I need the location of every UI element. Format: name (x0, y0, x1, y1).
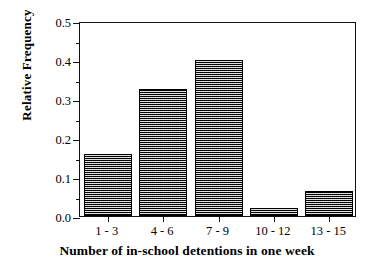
y-axis-title: Relative Frequency (19, 0, 35, 150)
y-axis-tick-label: 0.0 (55, 211, 71, 226)
x-axis-tick (274, 216, 275, 222)
x-axis-tick-label: 10 - 12 (255, 224, 290, 239)
y-axis-tick-major (73, 179, 80, 180)
chart-container: Relative Frequency 0.00.10.20.30.40.5 1 … (0, 0, 374, 270)
y-axis-tick-major (73, 23, 80, 24)
bar (305, 191, 353, 216)
y-axis-tick-major (73, 101, 80, 102)
bar (250, 208, 298, 216)
y-axis-tick-major (73, 218, 80, 219)
x-axis-tick-label: 1 - 3 (95, 224, 118, 239)
x-axis-tick-label: 7 - 9 (206, 224, 229, 239)
y-axis-tick-label: 0.2 (55, 133, 71, 148)
y-axis-tick-label: 0.4 (55, 55, 71, 70)
bar (195, 60, 243, 216)
y-axis-tick-label: 0.3 (55, 94, 71, 109)
bar (139, 89, 187, 216)
x-axis-tick (329, 216, 330, 222)
y-axis-tick-minor (76, 160, 80, 161)
x-axis-tick (163, 216, 164, 222)
y-axis-tick-label: 0.5 (55, 16, 71, 31)
bar (84, 154, 132, 216)
x-axis-title: Number of in-school detentions in one we… (0, 243, 374, 259)
y-axis-tick-minor (76, 199, 80, 200)
plot-area: 0.00.10.20.30.40.5 (79, 22, 356, 217)
bar-series (80, 23, 355, 216)
x-axis-tick-label: 13 - 15 (311, 224, 346, 239)
y-axis-tick-label: 0.1 (55, 172, 71, 187)
y-axis-tick-major (73, 62, 80, 63)
y-axis-tick-minor (76, 121, 80, 122)
y-axis-tick-minor (76, 43, 80, 44)
x-axis-tick (108, 216, 109, 222)
x-axis-tick-label: 4 - 6 (151, 224, 174, 239)
x-axis-tick (219, 216, 220, 222)
y-axis-tick-major (73, 140, 80, 141)
y-axis-tick-minor (76, 82, 80, 83)
